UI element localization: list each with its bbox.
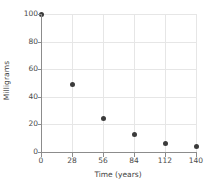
x-tick-label: 112 — [150, 157, 180, 165]
y-tick-label: 100 — [14, 10, 38, 18]
y-axis-title-text: Milligrams — [3, 60, 12, 99]
data-point — [163, 141, 168, 146]
x-tick-label: 0 — [26, 157, 56, 165]
scatter-chart: Milligrams 020406080100 0285684112140 Ti… — [0, 0, 206, 187]
gridline-horizontal — [41, 124, 196, 125]
x-tick-label: 84 — [119, 157, 149, 165]
y-tick-mark — [38, 69, 42, 70]
y-tick-mark — [38, 42, 42, 43]
y-tick-marks — [41, 14, 42, 152]
x-axis-title: Time (years) — [38, 170, 198, 179]
y-tick-label: 80 — [14, 38, 38, 46]
gridline-horizontal — [41, 14, 196, 15]
x-tick-label: 28 — [57, 157, 87, 165]
x-tick-label: 140 — [181, 157, 206, 165]
gridline-horizontal — [41, 69, 196, 70]
data-point — [70, 82, 75, 87]
gridline-vertical — [103, 14, 104, 152]
y-tick-mark — [38, 124, 42, 125]
y-tick-label: 60 — [14, 65, 38, 73]
y-tick-label: 40 — [14, 93, 38, 101]
y-tick-mark — [38, 14, 42, 15]
y-tick-label: 0 — [14, 148, 38, 156]
plot-area — [41, 14, 196, 152]
data-point — [132, 132, 137, 137]
x-tick-label: 56 — [88, 157, 118, 165]
gridline-vertical — [196, 14, 197, 152]
x-tick-labels: 0285684112140 — [41, 157, 196, 169]
data-point — [194, 144, 199, 149]
data-point — [101, 116, 106, 121]
gridline-horizontal — [41, 97, 196, 98]
y-tick-label: 20 — [14, 121, 38, 129]
gridline-vertical — [165, 14, 166, 152]
y-tick-labels: 020406080100 — [12, 14, 38, 152]
gridline-horizontal — [41, 42, 196, 43]
y-tick-mark — [38, 97, 42, 98]
